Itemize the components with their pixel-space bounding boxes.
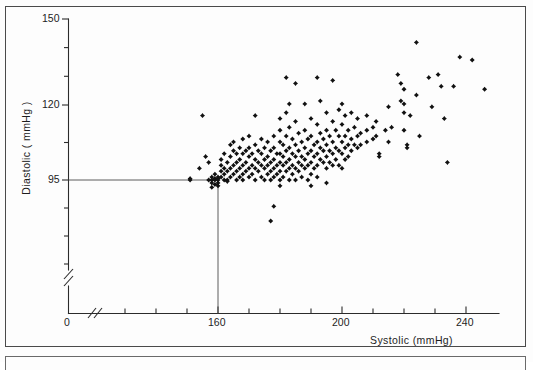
data-point	[268, 169, 273, 174]
data-point	[231, 148, 236, 153]
data-point	[290, 151, 295, 156]
data-point	[312, 166, 317, 171]
data-point	[318, 145, 323, 150]
data-point	[402, 87, 407, 92]
data-point	[200, 113, 205, 118]
x-tick-label-160: 160	[208, 316, 226, 328]
data-point	[343, 145, 348, 150]
data-point	[274, 163, 279, 168]
data-point	[219, 163, 224, 168]
data-point	[237, 175, 242, 180]
data-point	[240, 151, 245, 156]
data-point	[231, 172, 236, 177]
data-point	[299, 139, 304, 144]
data-point	[343, 157, 348, 162]
data-point	[377, 154, 382, 159]
data-point	[253, 142, 258, 147]
data-point	[324, 110, 329, 115]
data-point	[290, 137, 295, 142]
data-point	[299, 163, 304, 168]
data-point	[321, 137, 326, 142]
data-point	[315, 175, 320, 180]
data-point	[442, 116, 447, 121]
data-point	[330, 151, 335, 156]
x-tick-label-200: 200	[332, 316, 350, 328]
data-point	[268, 160, 273, 165]
data-point	[278, 128, 283, 133]
data-point	[309, 134, 314, 139]
data-point	[305, 137, 310, 142]
data-point	[293, 142, 298, 147]
data-point	[333, 157, 338, 162]
data-point	[209, 185, 214, 190]
data-point	[374, 119, 379, 124]
reference-lines	[69, 180, 219, 314]
data-point	[231, 163, 236, 168]
data-point	[281, 163, 286, 168]
data-point	[330, 139, 335, 144]
data-point	[259, 137, 264, 142]
data-point	[386, 139, 391, 144]
data-point	[293, 166, 298, 171]
data-point	[262, 178, 267, 183]
data-point	[343, 134, 348, 139]
data-point	[312, 142, 317, 147]
data-point	[305, 163, 310, 168]
data-point	[358, 131, 363, 136]
data-point	[240, 172, 245, 177]
data-point	[302, 101, 307, 106]
data-point	[309, 116, 314, 121]
data-point	[352, 125, 357, 130]
data-point	[225, 169, 230, 174]
data-point	[321, 160, 326, 165]
data-point	[349, 137, 354, 142]
y-tick-label-95: 95	[48, 173, 60, 185]
data-point	[278, 160, 283, 165]
data-point	[265, 139, 270, 144]
data-point	[203, 154, 208, 159]
data-point	[253, 113, 258, 118]
data-point	[429, 104, 434, 109]
data-point	[327, 148, 332, 153]
data-point	[336, 107, 341, 112]
origin-label: 0	[64, 316, 70, 328]
data-point	[318, 98, 323, 103]
data-point	[284, 160, 289, 165]
data-point	[268, 178, 273, 183]
data-point	[309, 172, 314, 177]
data-point	[386, 104, 391, 109]
y-tick-label-120: 120	[42, 98, 60, 110]
data-point	[315, 139, 320, 144]
data-point	[284, 148, 289, 153]
data-point	[414, 93, 419, 98]
data-point	[398, 98, 403, 103]
data-point	[247, 134, 252, 139]
data-point	[364, 139, 369, 144]
data-point	[470, 57, 475, 62]
data-point	[299, 175, 304, 180]
data-point	[278, 178, 283, 183]
data-point	[355, 145, 360, 150]
data-point	[364, 128, 369, 133]
data-point	[293, 81, 298, 86]
data-point	[262, 145, 267, 150]
data-point	[197, 166, 202, 171]
data-point	[293, 178, 298, 183]
y-axis-title: Diastolic ( mmHg )	[20, 88, 32, 208]
data-point	[340, 139, 345, 144]
data-point	[262, 166, 267, 171]
data-point	[426, 75, 431, 80]
axis-break-marks	[64, 269, 102, 318]
data-point	[296, 160, 301, 165]
data-point	[309, 183, 314, 188]
data-point	[219, 169, 224, 174]
data-point	[271, 204, 276, 209]
data-point	[278, 151, 283, 156]
data-point	[225, 160, 230, 165]
data-point	[336, 163, 341, 168]
data-point	[371, 137, 376, 142]
data-point	[271, 157, 276, 162]
data-point	[228, 154, 233, 159]
data-point	[299, 154, 304, 159]
data-point	[259, 163, 264, 168]
